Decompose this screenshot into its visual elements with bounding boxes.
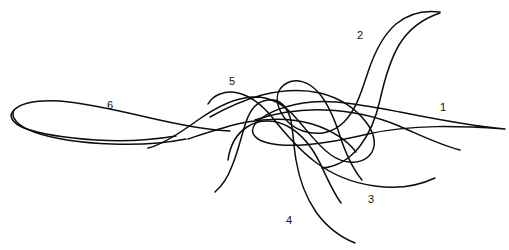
trace-tail-2b <box>322 13 440 168</box>
trace-label-3: 3 <box>368 194 374 205</box>
trace-label-6: 6 <box>107 100 113 111</box>
trace-3 <box>208 92 435 187</box>
trace-label-2: 2 <box>357 30 363 41</box>
trace-label-5: 5 <box>229 76 235 87</box>
figure-canvas: 1 2 3 4 5 6 <box>0 0 509 250</box>
trace-center-loop-a <box>188 119 356 152</box>
trace-label-1: 1 <box>440 102 446 113</box>
trace-svg <box>0 0 509 250</box>
trace-group <box>11 12 505 244</box>
trace-label-4: 4 <box>286 215 292 226</box>
trace-6-lower <box>13 110 186 144</box>
trace-arc-right <box>255 110 460 150</box>
